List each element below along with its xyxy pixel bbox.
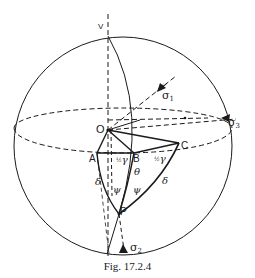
- line-B-C: [134, 143, 179, 153]
- label-sigma1: σ1: [162, 90, 174, 103]
- label-theta: θ: [134, 167, 140, 177]
- label-V: V: [98, 23, 103, 31]
- label-sigma2: σ2: [130, 242, 142, 255]
- label-half-gamma-left: ½γ: [116, 155, 128, 165]
- label-P: P: [120, 207, 127, 217]
- label-O: O: [96, 124, 105, 135]
- gamma-symbol: γ: [160, 153, 166, 164]
- label-psi-left: ψ: [113, 185, 121, 195]
- sigma3-dot: [184, 117, 187, 120]
- sigma1-symbol: σ: [162, 89, 170, 102]
- equator-front: [14, 128, 232, 153]
- gamma-symbol: γ: [122, 154, 128, 165]
- sigma2-symbol: σ: [130, 241, 138, 254]
- label-sigma3: σ3: [228, 117, 240, 130]
- line-O-C: [108, 130, 179, 143]
- label-psi-right: ψ: [133, 185, 141, 195]
- sigma3-subscript: 3: [236, 122, 240, 130]
- label-A: A: [89, 154, 96, 164]
- meridian-lower: [107, 214, 119, 254]
- label-B: B: [133, 154, 140, 164]
- sigma3-symbol: σ: [228, 116, 236, 129]
- sigma1-subscript: 1: [170, 95, 174, 103]
- label-delta-left: δ: [95, 177, 101, 187]
- dashed-O-P: [111, 130, 112, 196]
- point-O-dot: [106, 128, 109, 131]
- sigma1-axis: [108, 76, 176, 130]
- dashed-A-bottom: [97, 153, 109, 254]
- sigma2-arrowhead: [119, 244, 128, 253]
- sigma2-subscript: 2: [138, 247, 142, 255]
- figure-caption: Fig. 17.2.4: [0, 260, 255, 272]
- label-C: C: [181, 141, 188, 151]
- label-delta-right: δ: [162, 176, 168, 186]
- label-half-gamma-right: ½γ: [154, 154, 166, 164]
- sphere-diagram: [0, 0, 255, 278]
